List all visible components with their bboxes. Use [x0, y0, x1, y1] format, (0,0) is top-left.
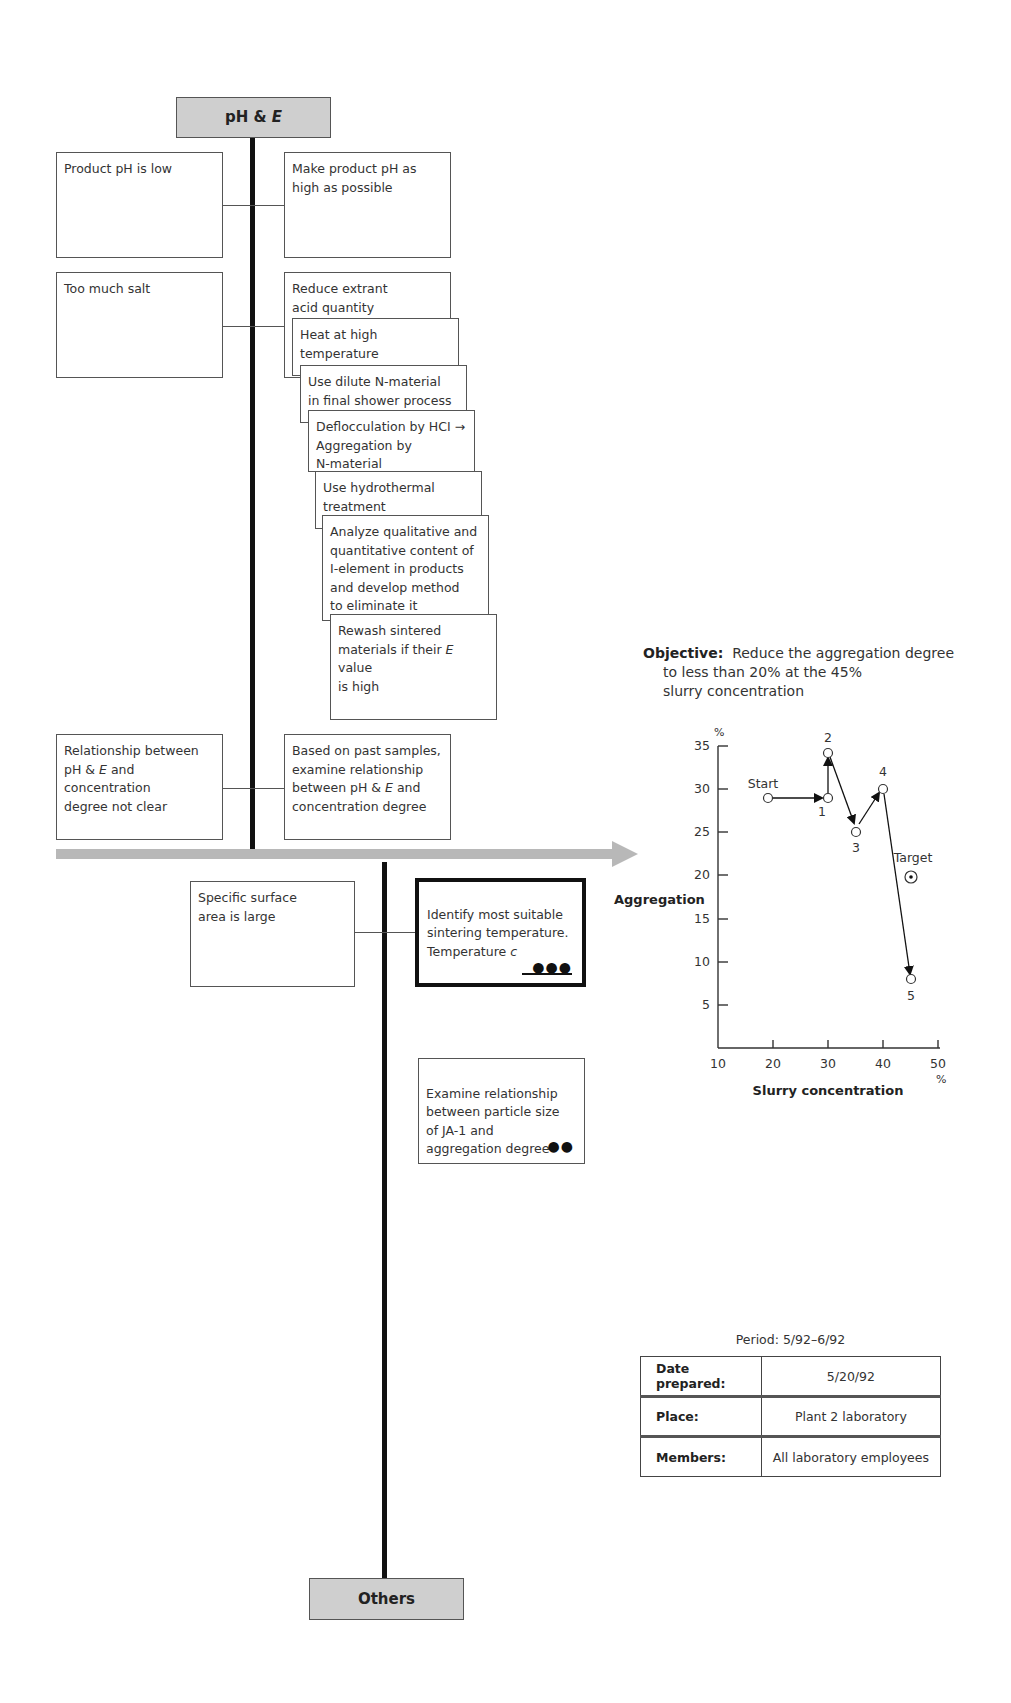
remedy-box: Make product pH as high as possible	[284, 152, 451, 258]
remedy-text-italic: c	[510, 944, 517, 959]
point-labels: Start 1 2 3 4 5 Target	[748, 730, 933, 1003]
info-value: All laboratory employees	[761, 1437, 940, 1477]
remedy-box: Rewash sintered materials if their E val…	[330, 614, 497, 720]
info-key: Date prepared:	[641, 1357, 762, 1397]
x-tick-labels: 102030 4050	[710, 1056, 946, 1071]
objective-line-2: to less than 20% at the 45%	[643, 663, 1003, 682]
svg-text:%: %	[936, 1073, 946, 1086]
objective-text: Objective: Reduce the aggregation degree…	[643, 644, 1003, 701]
main-arrow	[56, 840, 640, 870]
cause-box: Relationship between pH & E and concentr…	[56, 734, 223, 840]
remedy-box-highlighted: Identify most suitable sintering tempera…	[415, 878, 586, 987]
svg-text:%: %	[714, 726, 724, 739]
remedy-text-italic: E	[385, 780, 393, 795]
svg-text:50: 50	[930, 1056, 946, 1071]
svg-text:40: 40	[875, 1056, 891, 1071]
cause-box: Product pH is low	[56, 152, 223, 258]
connector	[223, 326, 284, 327]
svg-text:Start: Start	[748, 776, 779, 791]
connector	[355, 932, 415, 933]
lower-spine	[382, 862, 387, 1578]
svg-text:3: 3	[852, 840, 860, 855]
svg-text:25: 25	[694, 824, 710, 839]
svg-text:2: 2	[824, 730, 832, 745]
remedy-text: Rewash sintered materials if their	[338, 623, 446, 657]
svg-text:Slurry concentration: Slurry concentration	[753, 1083, 904, 1098]
remedy-text: value is high	[338, 660, 379, 694]
info-row: Place: Plant 2 laboratory	[641, 1397, 941, 1437]
svg-text:35: 35	[694, 738, 710, 753]
remedy-box: Based on past samples, examine relations…	[284, 734, 451, 840]
connector	[223, 205, 284, 206]
header-others: Others	[309, 1578, 464, 1620]
y-tick-labels: 353025 201510 5	[694, 738, 710, 1012]
remedy-box: Examine relationship between particle si…	[418, 1058, 585, 1164]
remedy-text: Examine relationship between particle si…	[426, 1086, 559, 1157]
cause-box: Too much salt	[56, 272, 223, 378]
svg-text:30: 30	[820, 1056, 836, 1071]
svg-text:5: 5	[907, 988, 915, 1003]
info-row: Members: All laboratory employees	[641, 1437, 941, 1477]
objective-label: Objective:	[643, 645, 723, 661]
info-table: Date prepared: 5/20/92 Place: Plant 2 la…	[640, 1356, 941, 1477]
svg-text:15: 15	[694, 911, 710, 926]
priority-rating-2: ●●	[548, 1137, 574, 1156]
aggregation-chart: 353025 201510 5 % 102030 4050 % Slurry c…	[600, 720, 1000, 1100]
remedy-text: Identify most suitable sintering tempera…	[427, 907, 569, 959]
priority-rating-3: ●●●	[522, 961, 572, 975]
connector	[223, 788, 284, 789]
svg-text:1: 1	[818, 804, 826, 819]
upper-spine	[250, 138, 255, 850]
header-ph-e: pH & E	[176, 97, 331, 138]
objective-text-1: Reduce the aggregation degree	[732, 645, 954, 661]
svg-text:30: 30	[694, 781, 710, 796]
info-value: Plant 2 laboratory	[761, 1397, 940, 1437]
remedy-box: Analyze qualitative and quantitative con…	[322, 515, 489, 621]
svg-text:10: 10	[694, 954, 710, 969]
remedy-text-italic: E	[446, 642, 454, 657]
header-label: pH &	[225, 108, 272, 126]
svg-text:20: 20	[694, 867, 710, 882]
objective-line-1: Objective: Reduce the aggregation degree	[643, 644, 1003, 663]
info-row: Date prepared: 5/20/92	[641, 1357, 941, 1397]
remedy-box: Deflocculation by HCI → Aggregation by N…	[308, 410, 475, 472]
header-label-italic: E	[272, 108, 282, 126]
svg-text:4: 4	[879, 764, 887, 779]
objective-line-3: slurry concentration	[643, 682, 1003, 701]
cause-text-italic: E	[99, 762, 107, 777]
info-key: Place:	[641, 1397, 762, 1437]
svg-text:5: 5	[702, 997, 710, 1012]
svg-text:20: 20	[765, 1056, 781, 1071]
info-key: Members:	[641, 1437, 762, 1477]
svg-text:Target: Target	[893, 850, 933, 865]
info-value: 5/20/92	[761, 1357, 940, 1397]
svg-text:10: 10	[710, 1056, 726, 1071]
cause-box: Specific surface area is large	[190, 881, 355, 987]
svg-text:Aggregation: Aggregation	[614, 892, 705, 907]
period-label: Period: 5/92–6/92	[640, 1332, 941, 1347]
